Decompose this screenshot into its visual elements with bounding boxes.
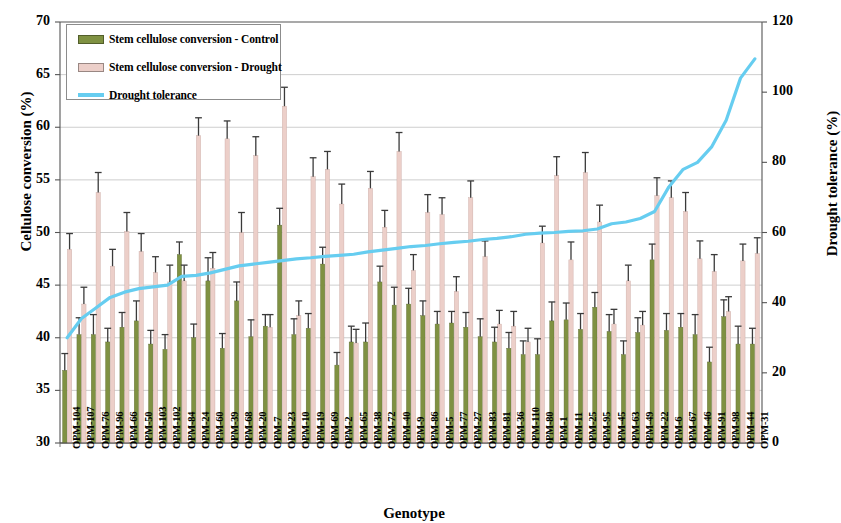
error-bar bbox=[625, 265, 632, 281]
error-bar bbox=[66, 234, 73, 250]
x-tick-label: OPM-91 bbox=[716, 412, 727, 449]
y-tick-label-left: 65 bbox=[16, 66, 50, 82]
legend-item-label: Stem cellulose conversion - Control bbox=[109, 33, 278, 45]
error-bar bbox=[482, 241, 489, 257]
bar-drought bbox=[282, 106, 286, 443]
x-axis-title: Genotype bbox=[0, 505, 828, 522]
x-tick-label: OPM-103 bbox=[157, 407, 168, 449]
error-bar bbox=[510, 311, 517, 326]
y-tick-label-right: 60 bbox=[772, 224, 812, 240]
error-bar bbox=[434, 311, 441, 324]
y-tick-label-left: 30 bbox=[16, 434, 50, 450]
error-bar bbox=[563, 303, 570, 320]
error-bar bbox=[391, 287, 398, 305]
error-bar bbox=[305, 314, 312, 329]
bar-drought bbox=[196, 136, 200, 443]
x-tick-label: OPM-68 bbox=[243, 412, 254, 449]
y-tick-label-right: 100 bbox=[772, 83, 812, 99]
y-tick-label-right: 120 bbox=[772, 13, 812, 29]
error-bar bbox=[109, 249, 116, 266]
legend-item: Stem cellulose conversion - Drought bbox=[67, 53, 280, 81]
error-bar bbox=[410, 255, 417, 271]
error-bar bbox=[682, 193, 689, 212]
error-bar bbox=[267, 315, 274, 328]
bar-drought bbox=[426, 213, 430, 443]
bar-drought bbox=[440, 215, 444, 443]
error-bar bbox=[548, 302, 555, 321]
x-tick-label: OPM-96 bbox=[114, 412, 125, 449]
error-bar bbox=[520, 341, 527, 355]
error-bar bbox=[123, 213, 130, 232]
error-bar bbox=[568, 242, 575, 260]
x-tick-label: OPM-2 bbox=[343, 417, 354, 449]
error-bar bbox=[711, 255, 718, 272]
error-bar bbox=[611, 309, 618, 324]
y-tick-label-left: 60 bbox=[16, 118, 50, 134]
bar-drought bbox=[96, 193, 100, 443]
error-bar bbox=[181, 265, 188, 281]
error-bar bbox=[348, 326, 355, 342]
error-bar bbox=[353, 329, 360, 343]
error-bar bbox=[310, 158, 317, 177]
bar-control bbox=[278, 225, 282, 443]
y-tick-label-left: 35 bbox=[16, 381, 50, 397]
error-bar bbox=[291, 319, 298, 335]
error-bar bbox=[162, 335, 169, 350]
error-bar bbox=[362, 323, 369, 342]
error-bar bbox=[295, 301, 302, 316]
error-bar bbox=[754, 238, 761, 254]
bar-drought bbox=[469, 198, 473, 443]
y-axis-title-right: Drought tolerance (%) bbox=[824, 64, 841, 304]
x-tick-label: OPM-69 bbox=[329, 412, 340, 449]
x-tick-label: OPM-83 bbox=[487, 412, 498, 449]
error-bar bbox=[334, 352, 341, 365]
error-bar bbox=[95, 173, 102, 193]
error-bar bbox=[119, 312, 126, 327]
error-bar bbox=[252, 137, 259, 156]
error-bar bbox=[276, 208, 283, 225]
bar-drought bbox=[583, 173, 587, 443]
legend-color-swatch bbox=[78, 63, 104, 72]
error-bar bbox=[166, 265, 173, 282]
chart-legend: Stem cellulose conversion - ControlStem … bbox=[66, 24, 281, 100]
bar-drought bbox=[397, 151, 401, 443]
x-tick-label: OPM-6 bbox=[673, 417, 684, 449]
error-bar bbox=[381, 210, 388, 227]
x-tick-label: OPM-10 bbox=[300, 412, 311, 449]
error-bar bbox=[749, 328, 756, 344]
error-bar bbox=[620, 341, 627, 355]
x-tick-label: OPM-76 bbox=[100, 412, 111, 449]
x-tick-label: OPM-72 bbox=[386, 412, 397, 449]
error-bar bbox=[453, 277, 460, 292]
error-bar bbox=[697, 241, 704, 259]
x-tick-label: OPM-24 bbox=[200, 412, 211, 449]
error-bar bbox=[577, 314, 584, 330]
x-tick-label: OPM-44 bbox=[745, 412, 756, 449]
error-bar bbox=[190, 324, 197, 338]
x-tick-label: OPM-27 bbox=[472, 412, 483, 449]
legend-item-label: Drought tolerance bbox=[109, 89, 197, 101]
bar-control bbox=[63, 370, 67, 443]
bar-drought bbox=[383, 227, 387, 443]
y-tick-label-left: 40 bbox=[16, 329, 50, 345]
x-tick-label: OPM-38 bbox=[372, 412, 383, 449]
error-bar bbox=[90, 315, 97, 335]
error-bar bbox=[634, 318, 641, 333]
error-bar bbox=[525, 328, 532, 342]
x-tick-label: OPM-110 bbox=[530, 407, 541, 449]
y-tick-label-left: 70 bbox=[16, 13, 50, 29]
bar-drought bbox=[325, 169, 329, 443]
x-tick-label: OPM-23 bbox=[286, 412, 297, 449]
legend-item-label: Stem cellulose conversion - Drought bbox=[109, 61, 282, 73]
x-tick-label: OPM-66 bbox=[128, 412, 139, 449]
error-bar bbox=[606, 315, 613, 332]
y-tick-label-right: 40 bbox=[772, 294, 812, 310]
x-tick-label: OPM-11 bbox=[573, 412, 584, 449]
bar-drought bbox=[368, 188, 372, 443]
error-bar bbox=[654, 178, 661, 196]
y-tick-label-right: 0 bbox=[772, 434, 812, 450]
error-bar bbox=[147, 330, 154, 344]
error-bar bbox=[133, 301, 140, 321]
x-tick-label: OPM-104 bbox=[71, 407, 82, 449]
x-tick-label: OPM-39 bbox=[229, 412, 240, 449]
